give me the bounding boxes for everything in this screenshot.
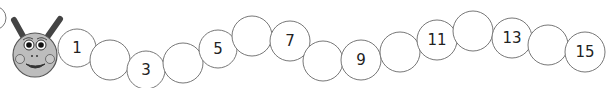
caterpillar-body: 13579111315 xyxy=(58,11,605,88)
segment-empty xyxy=(528,25,568,65)
segment-number: 3 xyxy=(141,61,151,79)
segment-empty xyxy=(232,16,272,56)
pupil-left xyxy=(26,42,32,48)
segment-number: 9 xyxy=(356,51,366,69)
antenna-right-icon xyxy=(48,19,60,36)
segment-number: 11 xyxy=(427,31,446,49)
segment-number: 15 xyxy=(575,43,594,61)
caterpillar-head xyxy=(13,19,60,77)
pupil-right xyxy=(38,42,44,48)
segment-empty xyxy=(303,41,343,81)
partial-circle xyxy=(0,6,6,30)
nostril xyxy=(36,55,38,57)
segment-empty xyxy=(163,43,203,83)
segment-empty xyxy=(90,40,130,80)
segment-number: 1 xyxy=(72,39,82,57)
segment-number: 13 xyxy=(502,29,521,47)
antenna-left-icon xyxy=(14,20,24,38)
caterpillar-number-sequence: 13579111315 xyxy=(0,0,607,88)
segment-empty xyxy=(453,11,493,51)
nostril xyxy=(31,55,33,57)
cheek-right xyxy=(46,55,55,64)
segment-number: 5 xyxy=(213,40,223,58)
cheek-left xyxy=(16,55,25,64)
segment-number: 7 xyxy=(285,32,295,50)
segment-empty xyxy=(380,32,420,72)
